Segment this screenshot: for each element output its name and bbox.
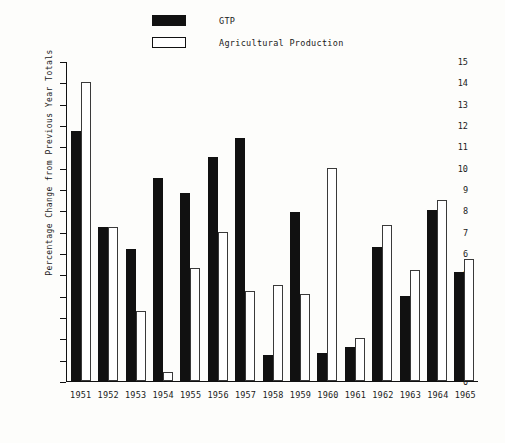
- y-tick-mark: [60, 62, 66, 63]
- bar-agricultural-production-1965: [464, 259, 474, 381]
- y-tick-mark: [60, 126, 66, 127]
- y-tick-mark: [60, 254, 66, 255]
- bar-gtp-1959: [290, 212, 300, 381]
- x-tick-label: 1957: [232, 390, 259, 400]
- x-tick-label: 1953: [122, 390, 149, 400]
- y-tick-mark: [60, 83, 66, 84]
- bar-gtp-1951: [71, 131, 81, 381]
- y-tick-mark: [60, 105, 66, 106]
- y-tick-mark: [60, 233, 66, 234]
- bar-agricultural-production-1955: [190, 268, 200, 381]
- bar-agricultural-production-1954: [163, 372, 173, 381]
- x-tick-label: 1960: [314, 390, 341, 400]
- bar-agricultural-production-1951: [81, 82, 91, 381]
- bar-gtp-1962: [372, 247, 382, 381]
- bar-gtp-1960: [317, 353, 327, 381]
- y-tick-mark: [60, 318, 66, 319]
- x-tick-label: 1961: [342, 390, 369, 400]
- x-tick-label: 1965: [452, 390, 479, 400]
- legend-swatch-agricultural-production: [152, 37, 186, 48]
- y-tick-mark: [60, 297, 66, 298]
- bar-group: [286, 62, 313, 381]
- x-tick-label: 1962: [369, 390, 396, 400]
- bar-group: [341, 62, 368, 381]
- x-tick-label: 1954: [149, 390, 176, 400]
- y-tick-mark: [60, 382, 66, 383]
- y-tick-mark: [60, 169, 66, 170]
- legend-swatch-gtp: [152, 15, 186, 26]
- bar-group: [231, 62, 258, 381]
- x-tick-label: 1956: [204, 390, 231, 400]
- x-axis-line: [66, 381, 478, 382]
- bar-group: [149, 62, 176, 381]
- bar-group: [204, 62, 231, 381]
- bar-gtp-1956: [208, 157, 218, 381]
- bar-agricultural-production-1952: [108, 227, 118, 381]
- bar-group: [423, 62, 450, 381]
- bar-agricultural-production-1953: [136, 311, 146, 381]
- x-tick-label: 1959: [287, 390, 314, 400]
- x-tick-label: 1952: [94, 390, 121, 400]
- bar-chart: GTP Agricultural Production Percentage C…: [0, 0, 505, 443]
- y-tick-mark: [60, 339, 66, 340]
- y-axis-title: Percentage Change from Previous Year Tot…: [45, 48, 54, 278]
- bar-groups: [67, 62, 478, 381]
- bar-gtp-1955: [180, 193, 190, 381]
- bar-agricultural-production-1956: [218, 232, 228, 381]
- bar-gtp-1953: [126, 249, 136, 381]
- bar-group: [314, 62, 341, 381]
- bar-group: [451, 62, 478, 381]
- bar-gtp-1954: [153, 178, 163, 381]
- x-tick-label: 1964: [424, 390, 451, 400]
- y-tick-mark: [60, 147, 66, 148]
- plot-area: 0123456789101112131415: [66, 62, 478, 382]
- bar-gtp-1964: [427, 210, 437, 381]
- bar-group: [122, 62, 149, 381]
- x-tick-label: 1951: [67, 390, 94, 400]
- bar-group: [177, 62, 204, 381]
- bar-gtp-1961: [345, 347, 355, 381]
- bar-agricultural-production-1962: [382, 225, 392, 381]
- x-tick-label: 1958: [259, 390, 286, 400]
- bar-agricultural-production-1963: [410, 270, 420, 381]
- bar-group: [94, 62, 121, 381]
- y-tick-mark: [60, 190, 66, 191]
- bar-group: [396, 62, 423, 381]
- x-tick-label: 1955: [177, 390, 204, 400]
- y-tick-mark: [60, 275, 66, 276]
- legend-label-agricultural-production: Agricultural Production: [219, 38, 344, 48]
- legend-label-gtp: GTP: [219, 16, 235, 26]
- bar-group: [259, 62, 286, 381]
- legend-item-gtp: GTP: [152, 12, 344, 29]
- x-axis-labels: 1951195219531954195519561957195819591960…: [67, 390, 479, 400]
- bar-agricultural-production-1958: [273, 285, 283, 381]
- bar-gtp-1958: [263, 355, 273, 381]
- bar-agricultural-production-1961: [355, 338, 365, 381]
- x-tick-label: 1963: [397, 390, 424, 400]
- y-tick-mark: [60, 361, 66, 362]
- bar-group: [368, 62, 395, 381]
- bar-agricultural-production-1964: [437, 200, 447, 381]
- bar-gtp-1965: [454, 272, 464, 381]
- bar-agricultural-production-1959: [300, 294, 310, 381]
- legend-item-agricultural-production: Agricultural Production: [152, 34, 344, 51]
- chart-legend: GTP Agricultural Production: [152, 12, 344, 56]
- bar-gtp-1963: [400, 296, 410, 381]
- y-tick-mark: [60, 211, 66, 212]
- bar-agricultural-production-1960: [327, 168, 337, 381]
- bar-gtp-1952: [98, 227, 108, 381]
- bar-agricultural-production-1957: [245, 291, 255, 381]
- bar-group: [67, 62, 94, 381]
- bar-gtp-1957: [235, 138, 245, 381]
